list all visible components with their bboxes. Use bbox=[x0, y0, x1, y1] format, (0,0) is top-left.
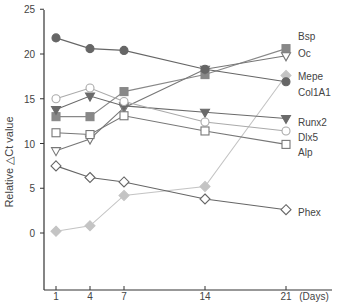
legend-label-bsp: Bsp bbox=[298, 31, 316, 42]
legend-label-dlx5: Dlx5 bbox=[298, 132, 318, 143]
series-col1a1 bbox=[52, 34, 290, 86]
y-tick-label: 5 bbox=[29, 183, 35, 194]
legend-label-col1a1: Col1A1 bbox=[298, 87, 331, 98]
series-layer bbox=[51, 34, 291, 236]
legend: BspOcMepeCol1A1Runx2Dlx5AlpPhex bbox=[298, 31, 331, 218]
x-tick-label: 4 bbox=[87, 291, 93, 302]
series-phex bbox=[51, 161, 291, 215]
series-oc bbox=[52, 53, 291, 156]
x-tick-label: 1 bbox=[53, 291, 59, 302]
y-tick-label: 0 bbox=[29, 228, 35, 239]
y-tick-label: 15 bbox=[24, 94, 36, 105]
line-chart: 05101520251471421(Days)Relative △Ct valu… bbox=[0, 0, 338, 304]
y-tick-label: 10 bbox=[24, 139, 36, 150]
y-axis-label: Relative △Ct value bbox=[3, 116, 15, 207]
x-tick-label: 7 bbox=[121, 291, 127, 302]
legend-label-runx2: Runx2 bbox=[298, 117, 327, 128]
x-tick-label: 21 bbox=[280, 291, 292, 302]
y-tick-label: 25 bbox=[24, 4, 36, 15]
x-axis-label: (Days) bbox=[299, 291, 328, 302]
legend-label-phex: Phex bbox=[298, 207, 321, 218]
legend-label-alp: Alp bbox=[298, 147, 313, 158]
legend-label-mepe: Mepe bbox=[298, 71, 323, 82]
legend-label-oc: Oc bbox=[298, 48, 311, 59]
x-tick-label: 14 bbox=[199, 291, 211, 302]
y-tick-label: 20 bbox=[24, 49, 36, 60]
